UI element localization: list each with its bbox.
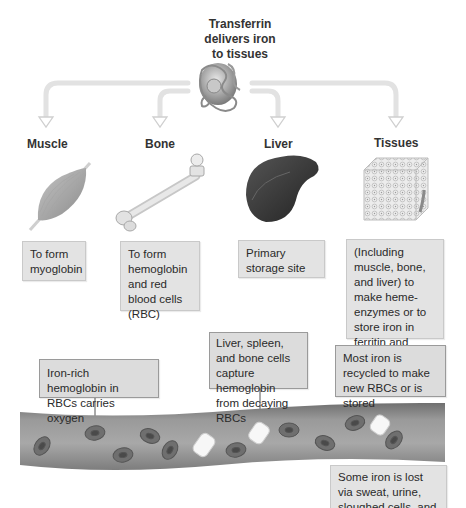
box-muscle-description: To form myoglobin: [22, 241, 86, 281]
label-tissues: Tissues: [374, 136, 418, 150]
liver-icon: [246, 155, 319, 222]
bone-icon: [116, 154, 204, 231]
label-muscle: Muscle: [27, 137, 68, 151]
callout-hemoglobin-oxygen: Iron-rich hemoglobin in RBCs carries oxy…: [39, 359, 159, 398]
box-liver-description: Primary storage site: [238, 240, 325, 278]
label-bone: Bone: [145, 137, 175, 151]
title-line-1: Transferrin: [180, 17, 300, 32]
title-line-3: to tissues: [180, 47, 300, 62]
tissue-block-icon: [364, 158, 428, 220]
callout-capture-hemoglobin: Liver, spleen, and bone cells capture he…: [209, 332, 308, 389]
muscle-icon: [30, 163, 90, 230]
box-tissues-description: (Including muscle, bone, and liver) to m…: [346, 239, 444, 339]
transferrin-protein-icon: [199, 63, 240, 111]
title-line-2: delivers iron: [180, 32, 300, 47]
transferrin-title: Transferrin delivers iron to tissues: [180, 17, 300, 62]
callout-iron-lost: Some iron is lost via sweat, urine, slou…: [330, 465, 447, 508]
label-liver: Liver: [264, 137, 293, 151]
callout-iron-recycled: Most iron is recycled to make new RBCs o…: [335, 345, 446, 397]
box-bone-description: To form hemoglobin and red blood cells (…: [120, 241, 200, 311]
